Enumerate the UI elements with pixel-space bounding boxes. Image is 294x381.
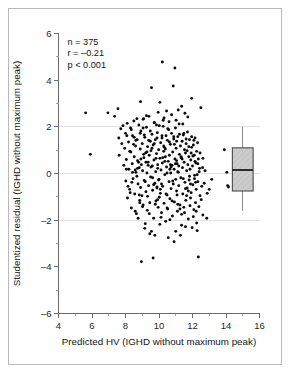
scatter-point xyxy=(195,150,198,153)
scatter-point xyxy=(197,158,200,161)
scatter-point xyxy=(185,142,188,145)
scatter-point xyxy=(156,131,159,134)
scatter-point xyxy=(192,144,195,147)
scatter-point xyxy=(168,141,171,144)
scatter-point xyxy=(152,183,155,186)
scatter-point xyxy=(137,183,140,186)
figure-container: –6–4–2024646810121416 Predicted HV (IGHD… xyxy=(0,0,294,381)
scatter-point xyxy=(84,111,87,114)
scatter-point xyxy=(168,197,171,200)
scatter-point xyxy=(140,260,143,263)
y-tick-label: –4 xyxy=(41,261,52,272)
scatter-point xyxy=(168,218,171,221)
scatter-point xyxy=(140,163,143,166)
scatter-point xyxy=(139,132,142,135)
scatter-point xyxy=(133,155,136,158)
annotation-p: p < 0.001 xyxy=(68,60,107,70)
scatter-point xyxy=(177,184,180,187)
scatter-point xyxy=(181,166,184,169)
scatter-point xyxy=(166,172,169,175)
scatter-point xyxy=(157,148,160,151)
scatter-point xyxy=(156,198,159,201)
scatter-point xyxy=(195,222,198,225)
scatter-point xyxy=(138,194,141,197)
scatter-point xyxy=(194,201,197,204)
scatter-point xyxy=(197,205,200,208)
scatter-point xyxy=(188,179,191,182)
scatter-point xyxy=(170,166,173,169)
scatter-point xyxy=(125,158,128,161)
x-tick-label: 6 xyxy=(89,320,94,331)
scatter-point xyxy=(200,185,203,188)
scatter-point xyxy=(168,180,171,183)
scatter-point xyxy=(189,204,192,207)
scatter-point xyxy=(175,147,178,150)
scatter-point xyxy=(162,150,165,153)
scatter-point xyxy=(175,190,178,193)
scatter-point xyxy=(189,159,192,162)
scatter-point xyxy=(152,257,155,260)
scatter-point xyxy=(145,172,148,175)
scatter-point xyxy=(127,141,130,144)
scatter-point xyxy=(196,229,199,232)
scatter-point xyxy=(171,151,174,154)
scatter-point xyxy=(192,139,195,142)
scatter-point xyxy=(179,234,182,237)
scatter-point xyxy=(176,194,179,197)
scatter-point xyxy=(158,223,161,226)
scatter-point xyxy=(201,157,204,160)
scatter-point xyxy=(154,170,157,173)
scatter-point xyxy=(186,116,189,119)
scatter-point xyxy=(201,166,204,169)
scatter-point xyxy=(156,163,159,166)
scatter-point xyxy=(165,193,168,196)
scatter-point xyxy=(160,183,163,186)
scatter-point xyxy=(156,167,159,170)
scatter-point xyxy=(134,139,137,142)
scatter-point xyxy=(141,142,144,145)
scatter-point xyxy=(144,161,147,164)
scatter-point xyxy=(208,188,211,191)
scatter-point xyxy=(158,196,161,199)
scatter-point xyxy=(161,61,164,64)
x-tick-label: 12 xyxy=(187,320,198,331)
scatter-point xyxy=(194,160,197,163)
scatter-point xyxy=(148,154,151,157)
scatter-point xyxy=(184,187,187,190)
scatter-point xyxy=(133,136,136,139)
scatter-points xyxy=(84,61,230,264)
scatter-point xyxy=(147,139,150,142)
scatter-point xyxy=(223,148,226,151)
scatter-point xyxy=(154,203,157,206)
scatter-point xyxy=(163,117,166,120)
scatter-point xyxy=(171,180,174,183)
scatter-point xyxy=(164,148,167,151)
stat-annotations: n = 375r = –0.21p < 0.001 xyxy=(68,37,107,70)
scatter-point xyxy=(148,232,151,235)
scatter-point xyxy=(143,134,146,137)
scatter-point xyxy=(131,171,134,174)
scatter-point xyxy=(179,176,182,179)
y-tick-label: –6 xyxy=(41,308,52,319)
scatter-point xyxy=(178,123,181,126)
y-tick-label: –2 xyxy=(41,215,52,226)
scatter-point xyxy=(187,218,190,221)
scatter-point xyxy=(187,190,190,193)
scatter-point xyxy=(174,178,177,181)
scatter-point xyxy=(130,207,133,210)
scatter-point xyxy=(193,174,196,177)
scatter-point xyxy=(187,145,190,148)
scatter-point xyxy=(173,240,176,243)
scatter-point xyxy=(160,216,163,219)
x-tick-label: 14 xyxy=(221,320,232,331)
scatter-point xyxy=(174,230,177,233)
scatter-point xyxy=(147,164,150,167)
scatter-point xyxy=(190,191,193,194)
scatter-point xyxy=(120,142,123,145)
scatter-point xyxy=(125,134,128,137)
scatter-point xyxy=(160,211,163,214)
scatter-point xyxy=(130,128,133,131)
scatter-point xyxy=(170,132,173,135)
scatter-point xyxy=(142,118,145,121)
scatter-point xyxy=(185,194,188,197)
